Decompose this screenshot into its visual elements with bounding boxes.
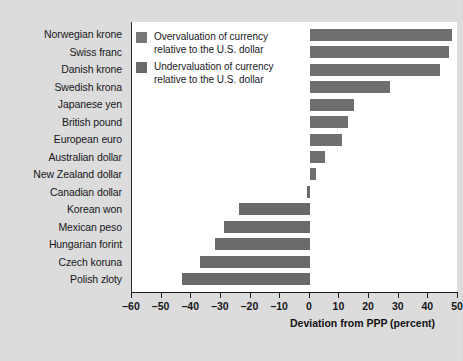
bar	[182, 273, 309, 285]
x-axis-tick	[368, 292, 369, 298]
x-axis-tick-label: 50	[451, 300, 463, 312]
bar	[310, 64, 440, 76]
category-label: European euro	[6, 131, 126, 148]
bar	[310, 81, 390, 93]
x-axis-tick-label: –20	[241, 300, 259, 312]
bar-row	[132, 131, 457, 148]
bar-row	[132, 166, 457, 183]
x-axis-tick	[309, 292, 310, 298]
bar	[310, 99, 354, 111]
legend-item: Undervaluation of currency relative to t…	[136, 61, 308, 86]
bar	[239, 203, 310, 215]
x-axis-tick	[398, 292, 399, 298]
bar-row	[132, 96, 457, 113]
legend-label: Overvaluation of currency relative to th…	[154, 31, 268, 56]
category-label: Japanese yen	[6, 96, 126, 113]
x-axis-tick-label: 40	[422, 300, 434, 312]
x-axis-tick-label: –40	[182, 300, 200, 312]
x-axis-tick	[190, 292, 191, 298]
x-axis-tick-label: –60	[122, 300, 140, 312]
bar	[215, 238, 310, 250]
x-axis-tick-label: 20	[362, 300, 374, 312]
category-label: Australian dollar	[6, 148, 126, 165]
chart-legend: Overvaluation of currency relative to th…	[136, 31, 308, 91]
x-axis-tick	[457, 292, 458, 298]
bar	[310, 168, 316, 180]
x-axis-tick	[338, 292, 339, 298]
x-axis-tick	[250, 292, 251, 298]
legend-swatch-icon	[136, 62, 147, 73]
bar-row	[132, 201, 457, 218]
category-label: Polish zloty	[6, 271, 126, 288]
x-axis-tick	[161, 292, 162, 298]
category-label: Hungarian forint	[6, 236, 126, 253]
bar	[310, 46, 449, 58]
category-label: Canadian dollar	[6, 183, 126, 200]
bar	[200, 256, 310, 268]
category-label: Czech koruna	[6, 253, 126, 270]
x-axis-tick-label: –10	[270, 300, 288, 312]
caption-strip	[0, 341, 462, 361]
category-label: Korean won	[6, 201, 126, 218]
x-axis-tick-label: 0	[306, 300, 312, 312]
x-axis-tick-label: 30	[392, 300, 404, 312]
category-axis-labels: Norwegian kroneSwiss francDanish kroneSw…	[6, 26, 126, 288]
bar-row	[132, 253, 457, 270]
bar-row	[132, 218, 457, 235]
category-label: Mexican peso	[6, 218, 126, 235]
legend-item: Overvaluation of currency relative to th…	[136, 31, 308, 56]
bar	[310, 134, 343, 146]
x-axis-line	[131, 292, 457, 293]
bar	[224, 221, 310, 233]
category-label: Swiss franc	[6, 43, 126, 60]
bar-row	[132, 113, 457, 130]
legend-label: Undervaluation of currency relative to t…	[154, 61, 274, 86]
bar-row	[132, 271, 457, 288]
category-label: Danish krone	[6, 61, 126, 78]
category-label: Swedish krona	[6, 78, 126, 95]
x-axis-title: Deviation from PPP (percent)	[270, 317, 455, 329]
category-label: British pound	[6, 113, 126, 130]
x-axis-tick-label: –50	[152, 300, 170, 312]
x-axis-tick	[279, 292, 280, 298]
category-label: New Zealand dollar	[6, 166, 126, 183]
bar-row	[132, 183, 457, 200]
bar	[310, 116, 349, 128]
x-axis-tick	[220, 292, 221, 298]
x-axis-tick	[131, 292, 132, 298]
category-label: Norwegian krone	[6, 26, 126, 43]
x-axis-tick-label: –30	[211, 300, 229, 312]
bar-row	[132, 148, 457, 165]
legend-swatch-icon	[136, 32, 147, 43]
x-axis-tick-label: 10	[333, 300, 345, 312]
x-axis-tick	[427, 292, 428, 298]
bar	[310, 151, 325, 163]
bar	[310, 29, 452, 41]
bar-row	[132, 236, 457, 253]
bar	[307, 186, 310, 198]
